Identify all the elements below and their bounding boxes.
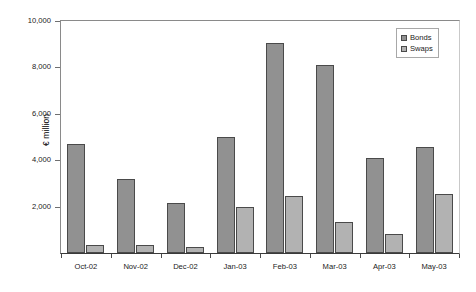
bar-swaps-apr-03 — [385, 234, 403, 253]
bar-swaps-dec-02 — [186, 247, 204, 253]
bar-bonds-dec-02 — [167, 203, 185, 253]
y-axis-tick-label: 2,000 — [32, 202, 51, 211]
bar-group — [260, 21, 310, 253]
bar-bonds-apr-03 — [366, 158, 384, 253]
x-axis-tick-label: Nov-02 — [111, 262, 161, 271]
bar-swaps-may-03 — [435, 194, 453, 253]
x-axis-tick-mark — [61, 254, 62, 258]
bar-swaps-nov-02 — [136, 245, 154, 253]
x-axis-tick-mark — [310, 254, 311, 258]
bar-group — [61, 21, 111, 253]
x-axis-tick-label: Mar-03 — [310, 262, 360, 271]
x-axis-tick-mark — [459, 254, 460, 258]
y-axis-tick-label: 10,000 — [28, 16, 51, 25]
legend-item-label: Swaps — [410, 44, 433, 53]
bonds-swatch-icon — [401, 35, 407, 41]
bar-group — [210, 21, 260, 253]
chart-legend: BondsSwaps — [396, 28, 439, 58]
bar-bonds-feb-03 — [266, 43, 284, 253]
x-axis-tick-label: Apr-03 — [360, 262, 410, 271]
bar-bonds-nov-02 — [117, 179, 135, 253]
bar-bonds-may-03 — [416, 147, 434, 253]
x-axis-tick-label: Dec-02 — [161, 262, 211, 271]
x-axis-tick-mark — [210, 254, 211, 258]
x-axis-tick-mark — [111, 254, 112, 258]
legend-item-bonds[interactable]: Bonds — [401, 32, 433, 43]
legend-item-label: Bonds — [410, 33, 432, 42]
bar-group — [161, 21, 211, 253]
y-axis-tick-label: 6,000 — [32, 109, 51, 118]
bar-swaps-jan-03 — [236, 207, 254, 253]
bar-group — [111, 21, 161, 253]
x-axis-tick-mark — [360, 254, 361, 258]
x-axis-tick-label: Feb-03 — [260, 262, 310, 271]
x-axis-tick-label: Jan-03 — [210, 262, 260, 271]
bar-bonds-jan-03 — [217, 137, 235, 253]
x-axis-tick-label: Oct-02 — [61, 262, 111, 271]
bar-group — [310, 21, 360, 253]
x-axis-tick-mark — [161, 254, 162, 258]
y-axis-tick-label: 4,000 — [32, 155, 51, 164]
bar-chart: € million 10,0008,0006,0004,0002,000 Oct… — [0, 0, 476, 292]
bar-bonds-mar-03 — [316, 65, 334, 253]
x-axis-tick-mark — [409, 254, 410, 258]
swaps-swatch-icon — [401, 46, 407, 52]
bar-swaps-mar-03 — [335, 222, 353, 253]
legend-item-swaps[interactable]: Swaps — [401, 43, 433, 54]
bar-bonds-oct-02 — [67, 144, 85, 253]
x-axis-tick-mark — [260, 254, 261, 258]
bar-swaps-oct-02 — [86, 245, 104, 253]
x-axis-tick-label: May-03 — [409, 262, 459, 271]
y-axis-tick-label: 8,000 — [32, 62, 51, 71]
bar-swaps-feb-03 — [285, 196, 303, 253]
